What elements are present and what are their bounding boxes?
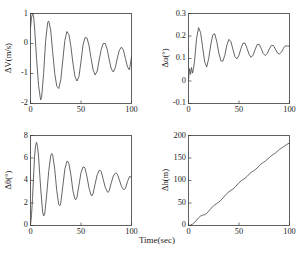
ytick-label: 100 xyxy=(174,175,186,184)
y-axis-ticks xyxy=(189,136,192,226)
ytick-label: 0 xyxy=(24,38,28,47)
ytick-label: 0.3 xyxy=(176,9,186,18)
ytick-label: 50 xyxy=(178,198,186,207)
ytick-label: 0 xyxy=(182,220,186,229)
panel-delta-alpha-svg: -0.1 0 0.1 0.2 0.3 0 50 100 Δα(°) xyxy=(158,8,301,126)
series-line-delta-v xyxy=(31,14,132,100)
xtick-label: 0 xyxy=(28,227,32,236)
y-axis-title: Δh(m) xyxy=(160,169,170,191)
x-axis-ticks xyxy=(31,223,132,226)
series-line-delta-theta xyxy=(31,142,132,225)
panel-delta-h-svg: 0 50 100 150 200 0 50 100 Δh(m) xyxy=(158,130,301,242)
panel-delta-v-svg: -2 -1 0 1 0 50 100 ΔV(m/s) xyxy=(0,8,150,126)
ytick-label: -1 xyxy=(21,68,28,77)
xtick-label: 100 xyxy=(283,227,295,236)
ytick-label: 8 xyxy=(24,131,28,140)
plot-frame xyxy=(189,136,290,226)
y-axis-ticks xyxy=(189,14,192,104)
xtick-label: 50 xyxy=(235,105,243,114)
panel-delta-alpha: -0.1 0 0.1 0.2 0.3 0 50 100 Δα(°) xyxy=(158,8,301,126)
ytick-label: 150 xyxy=(174,153,186,162)
series-line-delta-alpha xyxy=(189,28,290,81)
y-axis-title: ΔV(m/s) xyxy=(3,43,13,73)
y-axis-title: Δθ(°) xyxy=(3,170,13,189)
ytick-label: 4 xyxy=(24,175,29,184)
xtick-label: 0 xyxy=(186,105,190,114)
ytick-label: -0.1 xyxy=(173,98,186,107)
y-axis-title: Δα(°) xyxy=(160,48,170,67)
xtick-label: 100 xyxy=(125,105,137,114)
xtick-label: 50 xyxy=(77,105,85,114)
series-line-delta-h xyxy=(189,143,290,225)
ytick-label: 6 xyxy=(24,153,28,162)
xtick-label: 0 xyxy=(28,105,32,114)
ytick-label: 0 xyxy=(24,220,28,229)
figure-four-panel-time-response: -2 -1 0 1 0 50 100 ΔV(m/s) xyxy=(0,0,301,255)
panel-delta-v: -2 -1 0 1 0 50 100 ΔV(m/s) xyxy=(0,8,150,126)
ytick-label: 0.2 xyxy=(176,31,186,40)
ytick-label: -2 xyxy=(21,98,28,107)
ytick-label: 1 xyxy=(24,9,28,18)
x-axis-ticks xyxy=(189,223,290,226)
xtick-label: 50 xyxy=(77,227,85,236)
panel-delta-theta: 0 2 4 6 8 0 50 100 Δθ(°) xyxy=(0,130,150,242)
x-axis-ticks xyxy=(31,101,132,104)
panel-delta-theta-svg: 0 2 4 6 8 0 50 100 Δθ(°) xyxy=(0,130,150,242)
ytick-label: 2 xyxy=(24,198,28,207)
ytick-label: 0 xyxy=(182,76,186,85)
plot-frame xyxy=(31,136,132,226)
ytick-label: 200 xyxy=(174,131,186,140)
xtick-label: 100 xyxy=(283,105,295,114)
shared-x-axis-title: Time(sec) xyxy=(112,235,202,245)
xtick-label: 50 xyxy=(235,227,243,236)
plot-frame xyxy=(189,14,290,104)
x-axis-ticks xyxy=(189,101,290,104)
panel-delta-h: 0 50 100 150 200 0 50 100 Δh(m) xyxy=(158,130,301,242)
ytick-label: 0.1 xyxy=(176,53,186,62)
